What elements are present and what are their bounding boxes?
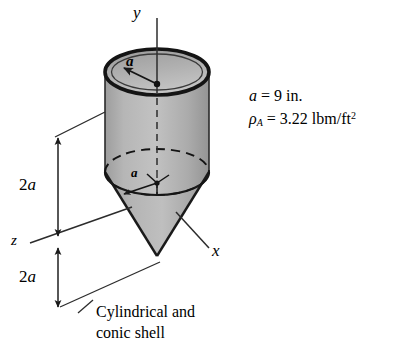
diagram-graphics [0, 0, 418, 356]
caption-line-2: conic shell [96, 325, 165, 342]
density-property-unit: lbm/ft [312, 110, 351, 127]
radius-property-symbol: a [249, 87, 257, 104]
radius-property-value: 9 [274, 87, 282, 104]
z-axis-label: z [11, 233, 17, 249]
lower-leader-line [60, 262, 160, 307]
density-property-unit-exponent: 2 [351, 110, 356, 121]
upper-dimension-number: 2 [19, 175, 28, 194]
caption-line-1: Cylindrical and [96, 304, 195, 321]
upper-dimension-symbol: a [28, 175, 37, 194]
upper-dimension-label: 2a [19, 176, 36, 194]
lower-dimension-symbol: a [28, 267, 37, 286]
density-property-equals: = [267, 110, 276, 127]
density-property-subscript: A [257, 117, 263, 128]
x-axis-label: x [212, 242, 220, 260]
lower-dimension-label: 2a [19, 268, 36, 286]
upper-leader-line [55, 112, 105, 137]
density-property-symbol: ρ [249, 110, 257, 127]
radius-property-line: a = 9 in. [249, 88, 302, 105]
mid-radius-label: a [131, 166, 138, 180]
figure-canvas: y x z a a 2a 2a a = 9 in. ρA = 3.22 lbm/… [0, 0, 418, 356]
caption-leader-line [78, 300, 93, 313]
radius-property-unit: in. [286, 87, 302, 104]
x-axis [176, 212, 209, 248]
density-property-value: 3.22 [280, 110, 308, 127]
density-property-line: ρA = 3.22 lbm/ft2 [249, 111, 356, 128]
y-axis-label: y [133, 4, 141, 22]
radius-property-equals: = [261, 87, 270, 104]
z-axis [30, 207, 132, 243]
top-radius-label: a [126, 54, 134, 70]
lower-dimension-number: 2 [19, 267, 28, 286]
